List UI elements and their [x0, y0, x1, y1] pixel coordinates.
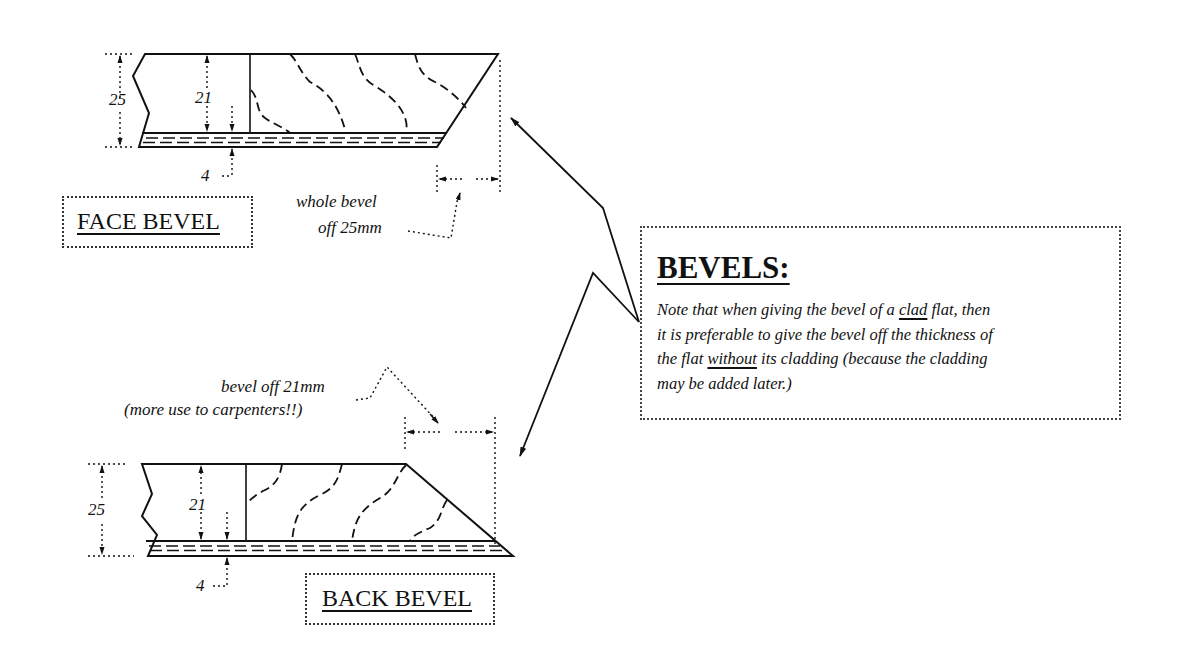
callout-line-1: Note that when giving the bevel of a cla…	[657, 298, 993, 323]
callout-emphasis-without: without	[707, 349, 757, 368]
back-bevel-label-box: BACK BEVEL	[305, 573, 495, 625]
face-bevel-board	[133, 54, 498, 147]
face-bevel-annotation-line2: off 25mm	[318, 219, 382, 236]
callout-line-4: may be added later.)	[657, 372, 993, 397]
callout-line-3-tail: its cladding (because the cladding	[757, 349, 988, 368]
bevels-callout-box: BEVELS: Note that when giving the bevel …	[640, 226, 1121, 420]
callout-emphasis-clad: clad	[899, 300, 927, 319]
face-bevel-label-box: FACE BEVEL	[62, 196, 253, 248]
callout-line-3: the flat without its cladding (because t…	[657, 347, 993, 372]
callout-line-1-text: Note that when giving the bevel of a	[657, 300, 899, 319]
face-bevel-label: FACE BEVEL	[77, 208, 220, 235]
face-bevel-total-thickness: 25	[109, 90, 126, 110]
back-bevel-core-thickness: 21	[189, 495, 206, 515]
back-bevel-total-thickness: 25	[88, 500, 105, 520]
callout-line-1-tail: flat, then	[927, 300, 990, 319]
callout-line-3-text: the flat	[657, 349, 707, 368]
back-bevel-label: BACK BEVEL	[322, 585, 472, 612]
face-bevel-cladding-thickness: 4	[201, 166, 210, 186]
callout-leader-arrows	[511, 118, 639, 456]
face-bevel-annotation-line1: whole bevel	[296, 193, 377, 210]
back-bevel-annotation-line1: bevel off 21mm	[221, 378, 325, 395]
callout-title: BEVELS:	[657, 250, 790, 286]
callout-body: Note that when giving the bevel of a cla…	[657, 298, 993, 396]
callout-line-2: it is preferable to give the bevel off t…	[657, 323, 993, 348]
back-bevel-annotation-line2: (more use to carpenters!!)	[124, 401, 302, 418]
back-bevel-cladding-thickness: 4	[196, 576, 205, 596]
face-bevel-core-thickness: 21	[195, 88, 212, 108]
